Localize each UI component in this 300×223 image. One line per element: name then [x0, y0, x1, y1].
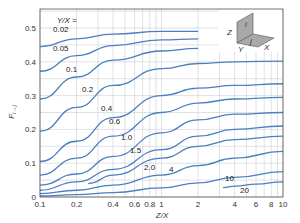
y-tick-label: 0.3	[25, 92, 37, 101]
inset-label-j: j	[249, 37, 252, 46]
x-tick-label: 1	[159, 200, 164, 209]
x-tick-label: 0.8	[144, 200, 156, 209]
x-tick-label: 0.4	[108, 200, 120, 209]
inset-plates-icon: Z i j Y X	[218, 10, 282, 54]
view-factor-chart: 0.10.20.40.60.81246810 00.10.20.30.40.5 …	[0, 0, 300, 223]
curve-label-0.4: 0.4	[101, 104, 113, 113]
curve-label-0.2: 0.2	[82, 85, 94, 94]
curve-label-0.6: 0.6	[109, 117, 121, 126]
y-tick-label: 0.4	[25, 58, 37, 67]
y-tick-label: 0	[32, 193, 37, 202]
y-tick-label: 0.2	[25, 125, 37, 134]
x-tick-label: 2	[196, 200, 201, 209]
curve-label-4: 4	[169, 165, 174, 174]
inset-label-y: Y	[238, 45, 244, 54]
legend-title: Y/X =	[57, 16, 77, 25]
inset-label-i: i	[245, 20, 247, 29]
x-tick-label: 8	[269, 200, 274, 209]
curve-label-10: 10	[225, 174, 234, 183]
curve-label-1.0: 1.0	[121, 133, 133, 142]
curve-label-1.5: 1.5	[130, 146, 142, 155]
curve-label-0.1: 0.1	[66, 65, 78, 74]
x-axis-label: Z/X	[155, 211, 169, 220]
x-tick-label: 0.6	[129, 200, 141, 209]
curve-yx-0.1	[40, 48, 198, 99]
x-axis-ticks: 0.10.20.40.60.81246810	[34, 200, 288, 209]
x-tick-label: 10	[279, 200, 288, 209]
curve-label-0.05: 0.05	[53, 44, 69, 53]
curve-label-0.02: 0.02	[53, 25, 69, 34]
x-tick-label: 0.2	[71, 200, 83, 209]
curve-label-20: 20	[240, 186, 249, 195]
curve-label-2.0: 2.0	[144, 163, 156, 172]
x-tick-label: 0.1	[34, 200, 46, 209]
y-tick-label: 0.5	[25, 24, 37, 33]
x-tick-label: 6	[254, 200, 259, 209]
inset-label-x: X	[263, 43, 270, 52]
y-tick-label: 0.1	[25, 159, 37, 168]
y-axis-label: Fi→j	[7, 105, 17, 119]
y-axis-ticks: 00.10.20.30.40.5	[25, 24, 37, 202]
x-tick-label: 4	[232, 200, 237, 209]
curve-yx-2.0	[88, 136, 283, 183]
